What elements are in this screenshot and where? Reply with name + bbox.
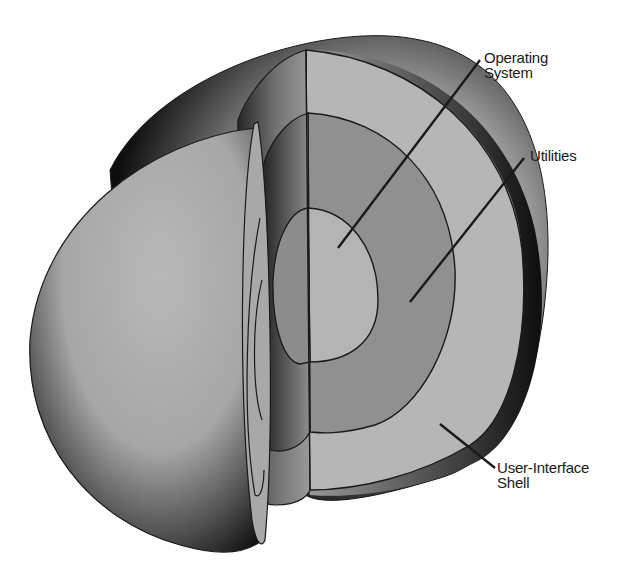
- label-user-interface-shell: User-Interface Shell: [497, 460, 589, 490]
- label-line: System: [484, 65, 548, 80]
- label-line: Utilities: [530, 148, 577, 163]
- label-operating-system: Operating System: [484, 50, 548, 80]
- label-line: User-Interface: [497, 460, 589, 475]
- label-line: Shell: [497, 475, 589, 490]
- layered-sphere-diagram: [0, 0, 624, 582]
- label-utilities: Utilities: [530, 148, 577, 163]
- front-hemisphere: [30, 128, 267, 552]
- label-line: Operating: [484, 50, 548, 65]
